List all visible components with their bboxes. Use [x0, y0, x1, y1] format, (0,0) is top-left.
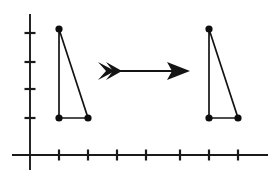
figure-canvas [0, 0, 275, 177]
triangle-image-outline [209, 29, 238, 118]
triangle-image-vertex-apex [205, 25, 212, 32]
triangle-preimage [55, 25, 91, 121]
arrow-tail-fletching-icon [98, 62, 115, 80]
triangle-preimage-vertex-apex [55, 25, 62, 32]
triangle-image-vertex-bottom-right [234, 114, 241, 121]
coordinate-plane-diagram [0, 0, 275, 177]
triangle-image-vertex-bottom-left [205, 114, 212, 121]
triangle-image [205, 25, 241, 121]
triangle-preimage-vertex-bottom-right [84, 114, 91, 121]
translation-arrow [98, 62, 190, 80]
triangle-preimage-outline [59, 29, 88, 118]
triangle-preimage-vertex-bottom-left [55, 114, 62, 121]
